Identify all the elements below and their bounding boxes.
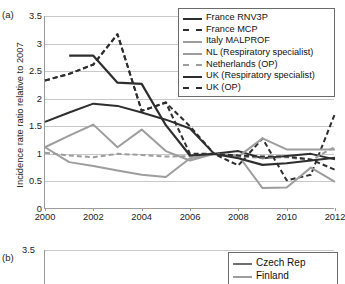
legend-item[interactable]: France RNV3P	[182, 12, 331, 24]
legend-line-swatch-icon	[182, 47, 203, 58]
y-tick-label: 2	[37, 94, 42, 104]
x-tick-label: 2004	[131, 212, 152, 222]
panel-b-label: (b)	[2, 252, 14, 263]
y-tick-label: 1.5	[29, 121, 42, 131]
legend-item[interactable]: UK (Respiratory specialist)	[182, 70, 331, 82]
legend-panel-b: Czech RepFinland	[228, 252, 338, 284]
legend-item-label: France RNV3P	[206, 12, 268, 23]
legend-line-swatch-icon	[182, 35, 203, 46]
series-line	[45, 104, 335, 160]
legend-line-swatch-icon	[182, 24, 203, 35]
legend-item[interactable]: France MCP	[182, 24, 331, 36]
x-tick-label: 2008	[228, 212, 249, 222]
y-tick-label: 2.5	[29, 66, 42, 76]
legend-item-label: Netherlands (OP)	[206, 59, 278, 70]
legend-item-label: UK (Respiratory specialist)	[206, 70, 315, 81]
legend-item-label: Italy MALPROF	[206, 35, 270, 46]
chart-panel-a: (a) Incidence rate ratio relative to 200…	[0, 0, 339, 236]
legend-panel-a: France RNV3PFrance MCPItaly MALPROFNL (R…	[178, 8, 335, 97]
gridline-top-b	[45, 250, 334, 251]
x-tick-mark	[335, 208, 336, 211]
legend-item-label: UK (OP)	[206, 82, 241, 93]
x-tick-label: 2010	[276, 212, 297, 222]
y-tick-label: 3	[37, 39, 42, 49]
legend-line-swatch-icon	[182, 12, 203, 23]
x-tick-label: 2006	[180, 212, 201, 222]
legend-item-label: Czech Rep	[256, 257, 305, 268]
x-tick-label: 2012	[325, 212, 345, 222]
legend-item-label: NL (Respiratory specialist)	[206, 47, 313, 58]
y-tick-label: 1	[37, 149, 42, 159]
legend-item[interactable]: Finland	[232, 269, 334, 282]
legend-item[interactable]: Czech Rep	[232, 256, 334, 269]
legend-item[interactable]: NL (Respiratory specialist)	[182, 47, 331, 59]
legend-line-swatch-icon	[182, 70, 203, 81]
legend-item-label: France MCP	[206, 24, 258, 35]
y-axis-tick-b: 3.5	[22, 245, 35, 255]
legend-line-swatch-icon	[182, 82, 203, 93]
legend-item[interactable]: UK (OP)	[182, 82, 331, 94]
legend-line-swatch-icon	[232, 270, 253, 281]
legend-line-swatch-icon	[182, 59, 203, 70]
y-axis-title: Incidence rate ratio relative to 2007	[15, 25, 25, 205]
legend-item[interactable]: Netherlands (OP)	[182, 58, 331, 70]
x-tick-label: 2000	[35, 212, 56, 222]
x-tick-label: 2002	[83, 212, 104, 222]
legend-item[interactable]: Italy MALPROF	[182, 35, 331, 47]
legend-item-label: Finland	[256, 270, 289, 281]
panel-a-label: (a)	[2, 9, 14, 20]
legend-line-swatch-icon	[232, 257, 253, 268]
y-tick-label: 0.5	[29, 176, 42, 186]
chart-panel-b: (b) 3.5 Czech RepFinland	[0, 236, 339, 284]
y-tick-label: 3.5	[29, 11, 42, 21]
